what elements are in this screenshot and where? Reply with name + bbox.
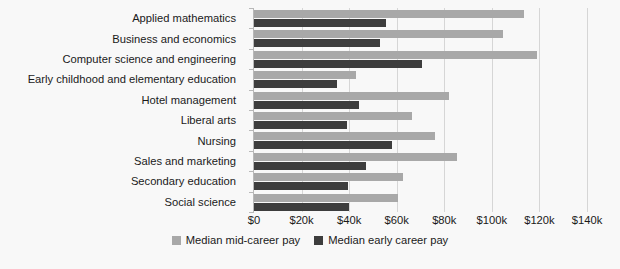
category-label: Applied mathematics [0, 12, 236, 24]
bar-median-mid-career-pay [254, 30, 503, 38]
category-label: Nursing [0, 135, 236, 147]
legend-item[interactable]: Median mid-career pay [172, 234, 300, 246]
category-label: Sales and marketing [0, 155, 236, 167]
bar-median-mid-career-pay [254, 132, 435, 140]
bar-group [254, 9, 587, 29]
bar-median-mid-career-pay [254, 10, 524, 18]
x-axis-tick-label: $80k [432, 214, 456, 226]
legend-item[interactable]: Median early career pay [314, 234, 448, 246]
bar-group [254, 111, 587, 131]
bar-median-early-career-pay [254, 162, 366, 170]
bar-chart: Applied mathematicsBusiness and economic… [0, 0, 620, 269]
bar-group [254, 172, 587, 192]
bar-median-early-career-pay [254, 121, 347, 129]
bar-group [254, 131, 587, 151]
bar-median-mid-career-pay [254, 92, 449, 100]
bar-median-mid-career-pay [254, 173, 403, 181]
category-label: Hotel management [0, 94, 236, 106]
category-label: Computer science and engineering [0, 53, 236, 65]
bar-median-early-career-pay [254, 19, 386, 27]
x-axis-tick-label: $120k [524, 214, 554, 226]
bar-median-mid-career-pay [254, 71, 356, 79]
bar-group [254, 91, 587, 111]
bar-median-early-career-pay [254, 39, 380, 47]
x-axis-tick-label: $60k [385, 214, 409, 226]
legend-label: Median early career pay [328, 234, 448, 246]
x-axis-tick-labels: $0$20k$40k$60k$80k$100k$120k$140k [254, 214, 587, 230]
bar-median-mid-career-pay [254, 51, 537, 59]
legend-swatch-icon [314, 236, 323, 245]
x-axis-tick-label: $0 [248, 214, 260, 226]
bar-median-mid-career-pay [254, 194, 398, 202]
bar-median-mid-career-pay [254, 112, 412, 120]
x-axis-tick-label: $100k [477, 214, 507, 226]
category-label: Social science [0, 196, 236, 208]
category-label: Secondary education [0, 175, 236, 187]
bar-median-mid-career-pay [254, 153, 457, 161]
bar-group [254, 152, 587, 172]
bar-median-early-career-pay [254, 203, 349, 211]
bar-group [254, 50, 587, 70]
plot-area [254, 8, 587, 212]
bar-median-early-career-pay [254, 80, 337, 88]
bar-median-early-career-pay [254, 60, 422, 68]
x-axis-tick-label: $140k [572, 214, 602, 226]
chart-legend: Median mid-career payMedian early career… [0, 234, 620, 246]
bar-median-early-career-pay [254, 182, 348, 190]
category-axis-labels: Applied mathematicsBusiness and economic… [0, 8, 244, 212]
bar-median-early-career-pay [254, 141, 392, 149]
legend-swatch-icon [172, 236, 181, 245]
gridline [587, 8, 588, 212]
x-axis-tick-label: $20k [289, 214, 313, 226]
category-label: Early childhood and elementary education [0, 73, 236, 85]
bar-group [254, 193, 587, 213]
category-label: Business and economics [0, 33, 236, 45]
category-label: Liberal arts [0, 114, 236, 126]
x-axis-tick-label: $40k [337, 214, 361, 226]
bar-group [254, 70, 587, 90]
legend-label: Median mid-career pay [186, 234, 300, 246]
bar-median-early-career-pay [254, 101, 359, 109]
bar-group [254, 29, 587, 49]
